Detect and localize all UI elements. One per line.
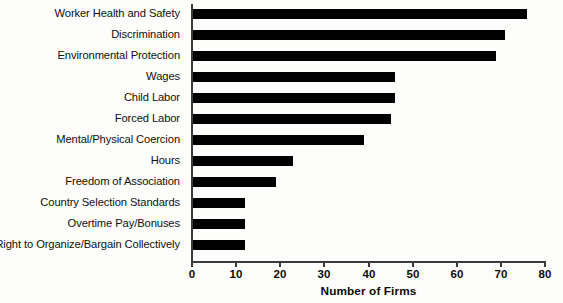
bar-row [192, 114, 391, 124]
bar-row [192, 9, 527, 19]
category-label: Hours [151, 155, 180, 166]
category-label: Overtime Pay/Bonuses [68, 218, 180, 229]
bar-row [192, 177, 276, 187]
bar-row [192, 51, 496, 61]
x-tick [544, 262, 546, 267]
bar [192, 30, 505, 40]
x-tick [456, 262, 458, 267]
x-tick-label: 10 [230, 268, 243, 281]
category-label: Right to Organize/Bargain Collectively [0, 239, 180, 250]
x-tick-label: 80 [539, 268, 552, 281]
x-tick-label: 40 [363, 268, 376, 281]
x-tick [323, 262, 325, 267]
category-label: Worker Health and Safety [55, 8, 181, 19]
category-label: Child Labor [124, 92, 180, 103]
bar [192, 72, 395, 82]
x-tick-label: 70 [495, 268, 508, 281]
bar-row [192, 30, 505, 40]
bar [192, 156, 293, 166]
bar-row [192, 198, 245, 208]
x-tick-label: 20 [274, 268, 287, 281]
category-label: Discrimination [111, 29, 180, 40]
x-tick-label: 50 [407, 268, 420, 281]
x-tick-label: 60 [451, 268, 464, 281]
category-label: Wages [146, 71, 180, 82]
category-label: Country Selection Standards [40, 197, 180, 208]
x-tick [235, 262, 237, 267]
bar-row [192, 72, 395, 82]
category-label: Environmental Protection [57, 50, 180, 61]
bar-row [192, 219, 245, 229]
bar [192, 135, 364, 145]
bar [192, 177, 276, 187]
x-tick [279, 262, 281, 267]
x-tick-label: 0 [189, 268, 195, 281]
bar [192, 9, 527, 19]
category-label: Freedom of Association [65, 176, 180, 187]
bar-chart: Worker Health and Safety Discrimination … [0, 0, 563, 303]
x-tick [368, 262, 370, 267]
x-tick [191, 262, 193, 267]
x-axis-title: Number of Firms [192, 284, 545, 298]
y-axis-line [191, 4, 193, 261]
bar [192, 219, 245, 229]
category-label: Mental/Physical Coercion [56, 134, 180, 145]
bar [192, 51, 496, 61]
x-tick [500, 262, 502, 267]
bar-row [192, 93, 395, 103]
bar [192, 93, 395, 103]
x-tick-label: 30 [318, 268, 331, 281]
bar [192, 198, 245, 208]
bar [192, 114, 391, 124]
category-label: Forced Labor [115, 113, 180, 124]
x-tick [412, 262, 414, 267]
bar-row [192, 156, 293, 166]
bar [192, 240, 245, 250]
bar-row [192, 240, 245, 250]
bar-row [192, 135, 364, 145]
category-axis-labels: Worker Health and Safety Discrimination … [0, 0, 186, 259]
plot-area [192, 4, 545, 259]
